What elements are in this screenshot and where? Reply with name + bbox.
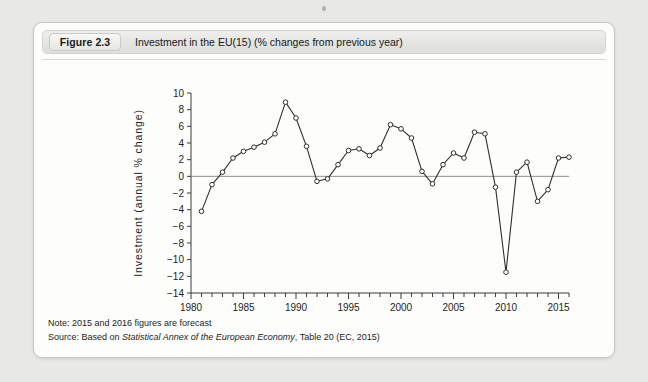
source-prefix: Source: Based on	[48, 332, 122, 342]
investment-series-line	[202, 102, 570, 272]
source-suffix: , Table 20 (EC, 2015)	[295, 332, 380, 342]
svg-text:8: 8	[178, 104, 184, 115]
svg-text:−6: −6	[173, 221, 185, 232]
source-publication: Statistical Annex of the European Econom…	[122, 332, 295, 342]
page-speck	[321, 6, 326, 12]
svg-text:−4: −4	[173, 204, 185, 215]
svg-text:−14: −14	[167, 288, 184, 299]
svg-text:−10: −10	[167, 254, 184, 265]
chart-plot-area: 1086420−2−4−6−8−10−12−14 198019851990199…	[34, 61, 614, 321]
note-text: 2015 and 2016 figures are forecast	[72, 318, 212, 328]
svg-text:2000: 2000	[390, 302, 413, 313]
investment-series-markers	[199, 100, 571, 275]
svg-text:4: 4	[178, 138, 184, 149]
note-line: Note: 2015 and 2016 figures are forecast	[48, 317, 380, 331]
svg-text:2005: 2005	[442, 302, 465, 313]
svg-text:2: 2	[178, 154, 184, 165]
svg-text:2010: 2010	[495, 302, 518, 313]
figure-number-tag: Figure 2.3	[49, 33, 121, 51]
investment-line-chart: 1086420−2−4−6−8−10−12−14 198019851990199…	[34, 61, 614, 321]
svg-text:1985: 1985	[232, 302, 255, 313]
note-prefix: Note:	[48, 318, 72, 328]
svg-text:1990: 1990	[285, 302, 308, 313]
svg-text:1980: 1980	[180, 302, 203, 313]
figure-header: Figure 2.3 Investment in the EU(15) (% c…	[42, 30, 606, 54]
svg-text:−12: −12	[167, 271, 184, 282]
y-axis-title: Investment (annual % change)	[132, 109, 144, 277]
figure-footnotes: Note: 2015 and 2016 figures are forecast…	[48, 317, 380, 345]
figure-caption: Investment in the EU(15) (% changes from…	[135, 36, 403, 48]
svg-text:0: 0	[178, 171, 184, 182]
svg-text:10: 10	[173, 88, 185, 99]
svg-text:−2: −2	[173, 188, 185, 199]
x-axis: 19801985199019952000200520102015	[180, 293, 570, 313]
svg-text:6: 6	[178, 121, 184, 132]
svg-text:2015: 2015	[547, 302, 570, 313]
svg-text:−8: −8	[173, 238, 185, 249]
figure-card: Figure 2.3 Investment in the EU(15) (% c…	[33, 22, 615, 358]
header-divider	[42, 59, 606, 60]
y-axis: 1086420−2−4−6−8−10−12−14	[167, 88, 191, 299]
svg-text:1995: 1995	[337, 302, 360, 313]
source-line: Source: Based on Statistical Annex of th…	[48, 331, 380, 345]
